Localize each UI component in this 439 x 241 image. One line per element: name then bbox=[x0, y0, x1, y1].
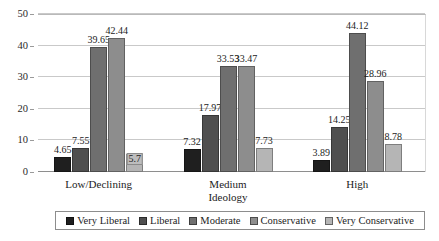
legend-swatch-icon bbox=[250, 217, 258, 225]
bar-value-label: 17.97 bbox=[199, 103, 222, 113]
bar-value-label: 7.55 bbox=[72, 136, 90, 146]
legend-swatch-icon bbox=[66, 217, 74, 225]
bar-value-label: 42.44 bbox=[105, 26, 128, 36]
legend-item[interactable]: Moderate bbox=[189, 215, 240, 226]
legend-item[interactable]: Conservative bbox=[250, 215, 316, 226]
bar bbox=[313, 160, 330, 172]
bar-value-label: 8.78 bbox=[385, 132, 403, 142]
y-tick-label: 40 bbox=[18, 40, 29, 51]
y-tick-mark bbox=[30, 77, 34, 78]
bar bbox=[220, 66, 237, 172]
legend-swatch-icon bbox=[325, 217, 333, 225]
y-tick-mark bbox=[30, 140, 34, 141]
y-tick-mark bbox=[30, 46, 34, 47]
bar bbox=[108, 38, 125, 172]
y-tick-mark bbox=[30, 14, 34, 15]
bar bbox=[238, 66, 255, 172]
x-category-label: Medium bbox=[209, 178, 246, 190]
legend-item[interactable]: Liberal bbox=[139, 215, 180, 226]
y-tick-mark bbox=[30, 172, 34, 173]
bar-value-label: 4.65 bbox=[54, 145, 72, 155]
bar bbox=[256, 148, 273, 172]
bar-value-label: 7.73 bbox=[255, 136, 273, 146]
legend-label: Liberal bbox=[150, 215, 180, 226]
legend-label: Very Conservative bbox=[336, 215, 414, 226]
bar-value-label: 3.89 bbox=[313, 148, 331, 158]
y-tick-label: 10 bbox=[18, 135, 29, 146]
legend-item[interactable]: Very Liberal bbox=[66, 215, 130, 226]
y-tick-label: 50 bbox=[18, 9, 29, 20]
bar bbox=[72, 148, 89, 172]
legend-label: Moderate bbox=[200, 215, 240, 226]
bar-value-label: 5.7 bbox=[126, 153, 143, 165]
bar bbox=[90, 47, 107, 172]
legend-swatch-icon bbox=[139, 217, 147, 225]
x-category-label: Low/Declining bbox=[65, 178, 132, 190]
bar-group: 4.657.5539.6542.445.7 bbox=[54, 14, 143, 172]
bar bbox=[367, 81, 384, 173]
chart-legend: Very LiberalLiberalModerateConservativeV… bbox=[55, 211, 425, 230]
bar-chart: 01020304050 4.657.5539.6542.445.77.3217.… bbox=[0, 0, 439, 241]
legend-label: Conservative bbox=[261, 215, 316, 226]
y-tick-mark bbox=[30, 109, 34, 110]
y-tick-label: 30 bbox=[18, 72, 29, 83]
x-category-label: High bbox=[346, 178, 368, 190]
bar bbox=[184, 149, 201, 172]
bar bbox=[202, 115, 219, 172]
bar-value-label: 28.96 bbox=[364, 69, 387, 79]
bar-group: 3.8914.2544.1228.968.78 bbox=[313, 14, 402, 172]
bar-value-label: 33.47 bbox=[235, 54, 258, 64]
bar bbox=[385, 144, 402, 172]
bar-value-label: 14.25 bbox=[328, 115, 351, 125]
y-axis: 01020304050 bbox=[0, 14, 34, 172]
bar bbox=[349, 33, 366, 172]
x-axis-title: Ideology bbox=[208, 191, 247, 203]
bar-value-label: 44.12 bbox=[346, 21, 369, 31]
bar bbox=[331, 127, 348, 172]
bar-group: 7.3217.9733.5333.477.73 bbox=[184, 14, 273, 172]
y-tick-label: 20 bbox=[18, 104, 29, 115]
legend-swatch-icon bbox=[189, 217, 197, 225]
legend-item[interactable]: Very Conservative bbox=[325, 215, 414, 226]
bar-value-label: 39.65 bbox=[87, 35, 110, 45]
legend-label: Very Liberal bbox=[77, 215, 130, 226]
bar-value-label: 7.32 bbox=[183, 137, 201, 147]
bars-layer: 4.657.5539.6542.445.77.3217.9733.5333.47… bbox=[38, 14, 426, 172]
y-tick-label: 0 bbox=[23, 167, 28, 178]
bar bbox=[54, 157, 71, 172]
